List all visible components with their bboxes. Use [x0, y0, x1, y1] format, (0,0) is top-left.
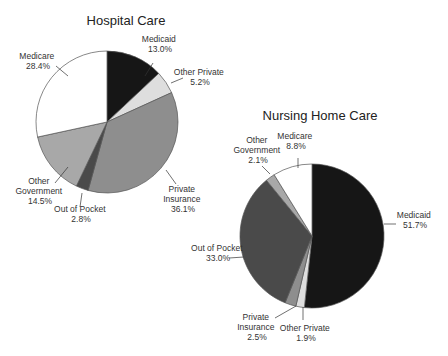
- nursing-label-medicaid: Medicaid 51.7%: [397, 210, 433, 230]
- nursing-label-medicare: Medicare 8.8%: [277, 131, 314, 151]
- pie-slice-medicaid: [304, 164, 384, 308]
- charts-canvas: Hospital Care Medicaid 13.0% Other Priva…: [0, 0, 448, 356]
- hospital-label-medicaid: Medicaid 13.0%: [142, 34, 178, 54]
- hospital-label-out-of-pocket: Out of Pocket 2.8%: [54, 204, 108, 224]
- hospital-care-chart: Hospital Care Medicaid 13.0% Other Priva…: [15, 13, 226, 224]
- hospital-pie: [36, 51, 178, 193]
- nursing-label-other-government: Other Government 2.1%: [233, 135, 282, 165]
- nursing-label-out-of-pocket: Out of Pocket 33.0%: [191, 243, 245, 263]
- nursing-title: Nursing Home Care: [263, 108, 378, 123]
- nursing-label-other-private: Other Private 1.9%: [280, 323, 332, 343]
- hospital-label-private-insurance: Private Insurance 36.1%: [163, 184, 203, 214]
- nursing-home-care-chart: Nursing Home Care Medicaid 51.7% Other P…: [191, 108, 433, 343]
- hospital-label-other-private: Other Private 5.2%: [174, 67, 226, 87]
- hospital-label-medicare: Medicare 28.4%: [19, 51, 56, 71]
- nursing-pie: [240, 164, 384, 308]
- nursing-label-private-insurance: Private Insurance 2.5%: [237, 312, 277, 342]
- hospital-title: Hospital Care: [87, 13, 166, 28]
